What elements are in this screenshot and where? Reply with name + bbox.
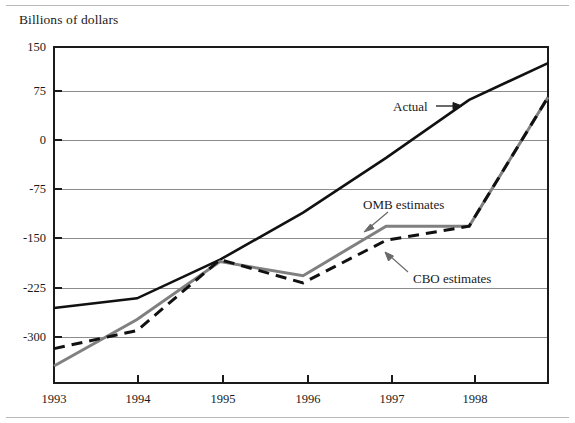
figure-container: Billions of dollars (0, 0, 575, 423)
xtick-label-1998: 1998 (445, 393, 505, 405)
series-line-omb-estimates (54, 97, 548, 366)
omb-leader-arrow (364, 212, 388, 232)
x-axis-ticks (138, 375, 475, 383)
annotation-actual: Actual (393, 100, 428, 113)
y-axis-ticks (54, 47, 62, 337)
annotation-omb-estimates: OMB estimates (363, 198, 444, 211)
cbo-leader-arrow (385, 252, 408, 272)
annotation-cbo-estimates: CBO estimates (413, 272, 491, 285)
xtick-label-1996: 1996 (278, 393, 338, 405)
ytick-label-neg150: -150 (2, 232, 46, 244)
ytick-label-150: 150 (2, 41, 46, 53)
ytick-label-neg300: -300 (2, 331, 46, 343)
annotation-leaders (364, 103, 462, 273)
xtick-label-1994: 1994 (108, 393, 168, 405)
data-series-layer (54, 63, 548, 366)
ytick-label-75: 75 (2, 85, 46, 97)
ytick-label-neg225: -225 (2, 282, 46, 294)
ytick-label-neg75: -75 (2, 183, 46, 195)
chart-plot-area (0, 0, 575, 423)
xtick-label-1997: 1997 (362, 393, 422, 405)
ytick-label-0: 0 (2, 134, 46, 146)
xtick-label-1995: 1995 (193, 393, 253, 405)
series-line-cbo-estimates (54, 97, 548, 348)
xtick-label-1993: 1993 (24, 393, 84, 405)
